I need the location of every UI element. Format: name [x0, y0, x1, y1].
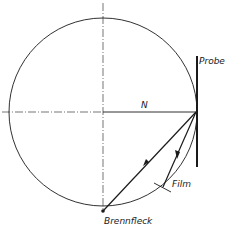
incident-ray	[103, 112, 196, 211]
normal-label: N	[141, 100, 148, 110]
diagram-canvas: Probe N Film Brennfleck	[0, 0, 228, 228]
film-label: Film	[172, 179, 191, 189]
focal-spot-label: Brennfleck	[104, 216, 153, 226]
probe-label: Probe	[199, 56, 225, 66]
focal-spot-point	[101, 209, 105, 213]
diffracted-ray	[163, 112, 196, 187]
